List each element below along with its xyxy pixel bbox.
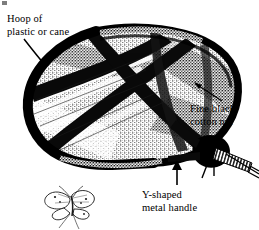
butterfly	[45, 186, 95, 229]
label-net-line1: Fine black	[190, 103, 235, 116]
label-handle-line2: metal handle	[142, 202, 197, 215]
hoop-pointer-arrow	[24, 39, 47, 68]
label-hoop-line1: Hoop of	[7, 13, 69, 26]
label-net: Fine black cotton net	[190, 103, 235, 128]
label-hoop-line2: plastic or cane	[7, 26, 69, 39]
label-hoop: Hoop of plastic or cane	[7, 13, 69, 38]
label-handle: Y-shaped metal handle	[142, 189, 197, 214]
butterfly-net-diagram: Hoop of plastic or cane Fine black cotto…	[0, 0, 259, 230]
label-net-line2: cotton net	[190, 116, 235, 129]
label-handle-line1: Y-shaped	[142, 189, 197, 202]
